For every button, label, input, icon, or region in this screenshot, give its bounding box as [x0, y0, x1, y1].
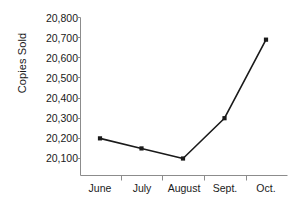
x-tick-label: Oct. — [256, 183, 275, 194]
x-tick-label: June — [89, 183, 112, 194]
x-tick-label: July — [133, 183, 152, 194]
line-chart: Copies Sold 20,800 20,700 20,600 20,500 … — [0, 0, 298, 206]
x-tick-label: August — [168, 183, 201, 194]
x-axis-tick-labels: June July August Sept. Oct. — [0, 0, 298, 206]
x-tick-label: Sept. — [213, 183, 238, 194]
